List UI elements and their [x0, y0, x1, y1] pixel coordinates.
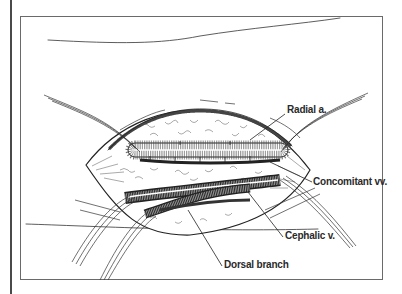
label-radial-artery: Radial a. — [287, 104, 326, 115]
label-concomitant-veins: Concomitant vv. — [313, 176, 387, 187]
forearm-upper-contour — [48, 18, 340, 43]
label-cephalic-vein: Cephalic v. — [285, 230, 335, 241]
label-dorsal-branch: Dorsal branch — [224, 259, 289, 270]
surgical-illustration — [0, 0, 402, 294]
